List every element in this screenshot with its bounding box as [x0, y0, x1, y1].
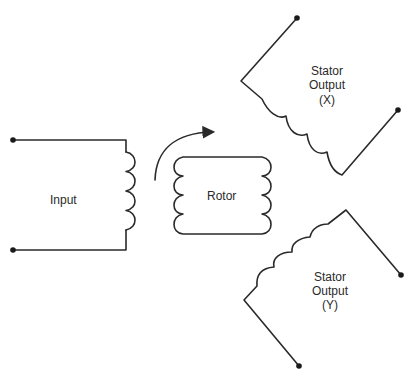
stator-x-terminal-top: [294, 15, 300, 21]
rotor-label: Rotor: [207, 189, 236, 203]
stator-x-label-line2: Output: [309, 78, 346, 92]
input-label: Input: [50, 193, 77, 207]
input-terminal-top: [10, 137, 16, 143]
stator-y-label-line3: (Y): [322, 298, 338, 312]
stator-x-terminal-right: [395, 107, 401, 113]
stator-y-label-line2: Output: [312, 284, 349, 298]
input-bottom-wire: [13, 230, 126, 250]
rotation-arrow-icon: [155, 132, 212, 180]
stator-y-label-line1: Stator: [314, 270, 346, 284]
input-coil: [126, 152, 135, 230]
input-terminal-bottom: [10, 247, 16, 253]
stator-x-label-line1: Stator: [311, 64, 343, 78]
stator-y-terminal-right: [398, 272, 404, 278]
input-top-wire: [13, 140, 126, 152]
stator-y-terminal-bottom: [296, 363, 302, 369]
resolver-diagram: Input Rotor Stator Output (X) Stator Out…: [0, 0, 418, 382]
stator-x-label-line3: (X): [319, 93, 335, 107]
